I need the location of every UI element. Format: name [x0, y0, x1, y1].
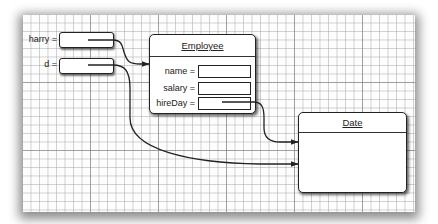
- arrow-harry-to-employee: [88, 40, 149, 64]
- arrow-d-to-date: [88, 65, 298, 164]
- reference-arrows: [0, 0, 438, 224]
- arrow-hireDay-to-date: [222, 102, 298, 142]
